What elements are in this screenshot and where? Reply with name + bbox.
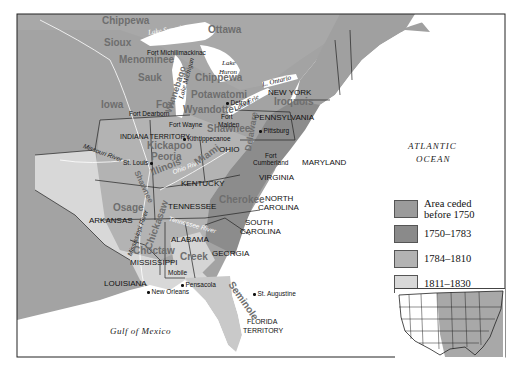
label-atlantic-ocean-2: OCEAN (416, 155, 451, 164)
label-florida-2: TERRITORY (243, 327, 283, 334)
label-maryland: MARYLAND (302, 159, 346, 167)
label-pittsburg: Pittsburg (264, 127, 290, 134)
label-gulf-of-mexico: Gulf of Mexico (110, 327, 171, 336)
legend-label-line2: before 1750 (424, 209, 474, 220)
label-mobile: Mobile (168, 270, 187, 277)
label-tribe-kickapoo: Kickapoo (147, 141, 192, 151)
city-dot-icon (183, 138, 186, 141)
label-tribe-choctaw: Choctaw (133, 246, 175, 256)
label-fort-cumberland-2: Cumberland (253, 160, 288, 167)
city-dot-icon (147, 291, 150, 294)
label-atlantic-ocean-1: ATLANTIC (408, 142, 457, 151)
city-dot-icon (253, 293, 256, 296)
label-tribe-sioux: Sioux (104, 38, 131, 48)
legend-swatch (394, 225, 418, 243)
city-dot-icon (226, 102, 229, 105)
city-dot-icon (181, 284, 184, 287)
legend-label: Area ceded (424, 198, 474, 209)
label-north-carolina-2: CAROLINA (258, 204, 299, 212)
inset-locator-map (395, 288, 505, 358)
legend-item-1784-1810: 1784–1810 (394, 249, 474, 269)
label-fort-malden-2: Malden (218, 122, 239, 129)
label-tribe-ottawa: Ottawa (208, 25, 241, 35)
city-dot-icon (150, 162, 153, 165)
label-tribe-chippewa-north: Chippewa (102, 16, 149, 26)
city-dot-icon (259, 130, 262, 133)
label-tribe-creek: Creek (180, 252, 208, 262)
label-tribe-menominee: Menominee (119, 55, 174, 65)
legend-label: 1750–1783 (424, 228, 471, 239)
label-louisiana: LOUISIANA (104, 280, 147, 288)
label-pennsylvania: PENNSYLVANIA (254, 114, 314, 122)
label-new-orleans: New Orleans (152, 288, 190, 295)
label-georgia: GEORGIA (212, 250, 249, 258)
label-fort-michilimackinac: Fort Michilimackinac (147, 50, 206, 57)
legend-swatch (394, 250, 418, 268)
label-st-louis: St. Louis (123, 159, 148, 166)
label-st-augustine: St. Augustine (258, 290, 296, 297)
label-tribe-iroquois: Iroquois (274, 97, 313, 107)
label-pensacola: Pensacola (186, 281, 216, 288)
legend-item-before-1750: Area cededbefore 1750 (394, 199, 474, 219)
label-tribe-cherokee: Cherokee (219, 195, 265, 205)
label-tribe-iowa: Iowa (101, 100, 123, 110)
label-fort-malden-1: Fort (221, 114, 233, 121)
label-virginia: VIRGINIA (259, 174, 294, 182)
legend-swatch (394, 200, 418, 218)
label-south-carolina-1: SOUTH (245, 219, 273, 227)
label-tribe-chippewa-mi: Chippewa (195, 73, 242, 83)
legend-item-1750-1783: 1750–1783 (394, 224, 474, 244)
label-tribe-osage: Osage (113, 203, 144, 213)
label-indiana-territory: INDIANA TERRITORY (120, 133, 190, 140)
label-kentucky: KENTUCKY (181, 180, 225, 188)
label-tribe-fox: Fox (156, 100, 174, 110)
label-arkansas: ARKANSAS (89, 217, 133, 225)
label-fort-wayne: Fort Wayne (169, 122, 202, 129)
label-fort-dearborn: Fort Dearborn (129, 111, 169, 118)
label-mississippi: MISSISSIPPI (130, 259, 178, 267)
label-tribe-sauk: Sauk (138, 73, 162, 83)
label-tennessee: TENNESSEE (168, 203, 216, 211)
map-legend: Area cededbefore 1750 1750–1783 1784–181… (394, 199, 474, 299)
label-lake-huron-1: Lake (222, 60, 236, 67)
legend-label: 1784–1810 (424, 253, 471, 264)
label-north-carolina-1: NORTH (265, 195, 293, 203)
label-alabama: ALABAMA (171, 236, 209, 244)
us-outline-icon (395, 289, 505, 358)
label-south-carolina-2: CAROLINA (240, 228, 281, 236)
label-ohio: OHIO (219, 146, 239, 154)
label-kithtippecanoe: Kithtippecanoe (188, 135, 231, 142)
label-detroit: Detroit (231, 99, 250, 106)
